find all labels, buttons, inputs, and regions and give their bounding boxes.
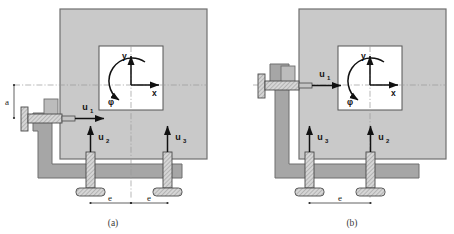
axis-label-x-b: x [391, 88, 396, 98]
panel-b-drawing: y x φ u 1 u 3 [227, 0, 454, 234]
panel-a: y x φ u 1 u 2 [0, 0, 227, 234]
actuator-label-u3-b: u [317, 132, 323, 142]
actuator-label-u1-a: u [82, 102, 88, 112]
dimension-a-a: a [5, 85, 14, 118]
rotation-label-phi-a: φ [108, 97, 114, 107]
panel-a-drawing: y x φ u 1 u 2 [0, 0, 227, 234]
dimension-label-a-a: a [5, 97, 9, 107]
rotation-label-phi-b: φ [347, 97, 353, 107]
figure-container: y x φ u 1 u 2 [0, 0, 454, 234]
dimension-label-e-b: e [338, 193, 342, 203]
dimension-label-e-right-a: e [147, 193, 151, 203]
actuator-label-u3-a: u [175, 132, 181, 142]
axis-label-y-b: y [361, 51, 366, 61]
panel-caption-a: (a) [108, 218, 119, 229]
axis-label-x-a: x [152, 88, 157, 98]
actuator-label-u1-b: u [319, 69, 325, 79]
actuator-label-u2-b: u [378, 132, 384, 142]
panel-caption-b: (b) [346, 218, 357, 229]
dimension-label-e-left-a: e [108, 193, 112, 203]
panel-b: y x φ u 1 u 3 [227, 0, 454, 234]
axis-label-y-a: y [122, 51, 127, 61]
actuator-label-u2-a: u [98, 132, 104, 142]
